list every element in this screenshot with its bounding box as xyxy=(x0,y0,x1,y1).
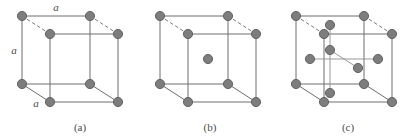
atom-face-center-back xyxy=(325,45,334,54)
atom-corner xyxy=(223,11,232,20)
atom-corner xyxy=(319,29,328,38)
atom-face-center-left xyxy=(305,54,314,63)
atom-face-center-right xyxy=(373,54,382,63)
atom-corner xyxy=(85,11,94,20)
atom-corner xyxy=(113,97,122,106)
panel-caption-b: (b) xyxy=(204,121,217,134)
atom-corner xyxy=(319,97,328,106)
atom-corner xyxy=(183,97,192,106)
atom-corner xyxy=(359,11,368,20)
atom-corner xyxy=(387,29,396,38)
atom-corner xyxy=(359,79,368,88)
atom-corner xyxy=(291,79,300,88)
atom-corner xyxy=(183,29,192,38)
atom-corner xyxy=(17,79,26,88)
atom-corner xyxy=(223,79,232,88)
atom-corner xyxy=(155,11,164,20)
atom-corner xyxy=(85,79,94,88)
atom-corner xyxy=(113,29,122,38)
atom-corner xyxy=(251,29,260,38)
panel-caption-c: (c) xyxy=(342,121,355,134)
dimension-label-bottom: a xyxy=(33,97,39,109)
lattice-diagram-canvas: a a a (a) xyxy=(0,0,420,137)
dimension-label-top: a xyxy=(53,1,59,13)
atom-corner xyxy=(387,97,396,106)
atom-face-center-bottom xyxy=(325,88,334,97)
atom-face-center-front xyxy=(353,63,362,72)
atom-corner xyxy=(155,79,164,88)
atom-body-center xyxy=(203,54,212,63)
crystal-lattice-figure: a a a (a) xyxy=(0,0,420,137)
dimension-label-left: a xyxy=(11,44,17,56)
atom-face-center-top xyxy=(325,20,334,29)
atom-corner xyxy=(17,11,26,20)
atom-corner xyxy=(45,29,54,38)
atom-corner xyxy=(251,97,260,106)
atom-corner xyxy=(291,11,300,20)
panel-caption-a: (a) xyxy=(74,121,87,134)
atom-corner xyxy=(45,97,54,106)
